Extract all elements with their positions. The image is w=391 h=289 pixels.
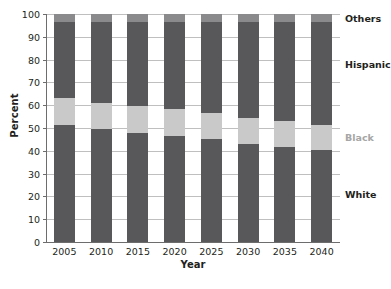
- bar-segment-2035-white[interactable]: [274, 147, 295, 242]
- bar-segment-2030-black[interactable]: [238, 118, 259, 144]
- x-axis-title: Year: [46, 259, 340, 270]
- bar-segment-2040-others[interactable]: [311, 14, 332, 22]
- bar-segment-2020-black[interactable]: [164, 109, 185, 136]
- y-tick-label-50: 50: [28, 123, 40, 134]
- legend-label-hispanic: Hispanic: [345, 59, 391, 70]
- y-tick-label-40: 40: [28, 145, 40, 156]
- x-tick-label-2015: 2015: [126, 246, 150, 257]
- bar-segment-2005-hispanic[interactable]: [54, 22, 75, 98]
- x-tick-label-2010: 2010: [89, 246, 113, 257]
- bar-segment-2040-hispanic[interactable]: [311, 22, 332, 125]
- y-tick-label-10: 10: [28, 214, 40, 225]
- y-tick-label-30: 30: [28, 168, 40, 179]
- bar-segment-2015-white[interactable]: [127, 133, 148, 242]
- bar-2035[interactable]: [274, 14, 295, 242]
- bar-segment-2025-others[interactable]: [201, 14, 222, 22]
- bar-2025[interactable]: [201, 14, 222, 242]
- y-tick-mark-100: [43, 14, 47, 15]
- bar-segment-2010-white[interactable]: [91, 129, 112, 242]
- y-tick-mark-0: [43, 242, 47, 243]
- bar-segment-2005-black[interactable]: [54, 98, 75, 124]
- bar-2015[interactable]: [127, 14, 148, 242]
- legend-label-white: White: [345, 189, 376, 200]
- bar-2020[interactable]: [164, 14, 185, 242]
- bar-segment-2005-others[interactable]: [54, 14, 75, 22]
- y-tick-label-80: 80: [28, 54, 40, 65]
- y-axis-title: Percent: [9, 81, 20, 151]
- bar-segment-2035-black[interactable]: [274, 121, 295, 147]
- x-tick-label-2025: 2025: [199, 246, 223, 257]
- y-tick-label-20: 20: [28, 191, 40, 202]
- bar-segment-2015-others[interactable]: [127, 14, 148, 22]
- x-tick-label-2040: 2040: [310, 246, 334, 257]
- bar-2005[interactable]: [54, 14, 75, 242]
- bar-segment-2010-black[interactable]: [91, 103, 112, 129]
- y-tick-mark-50: [43, 128, 47, 129]
- x-tick-label-2020: 2020: [163, 246, 187, 257]
- bar-segment-2010-others[interactable]: [91, 14, 112, 22]
- bar-segment-2030-others[interactable]: [238, 14, 259, 22]
- bar-segment-2040-black[interactable]: [311, 125, 332, 150]
- bar-segment-2030-hispanic[interactable]: [238, 22, 259, 118]
- y-tick-mark-10: [43, 219, 47, 220]
- y-tick-label-60: 60: [28, 100, 40, 111]
- bar-segment-2015-black[interactable]: [127, 106, 148, 132]
- y-tick-mark-70: [43, 82, 47, 83]
- bar-segment-2040-white[interactable]: [311, 150, 332, 242]
- y-tick-label-90: 90: [28, 31, 40, 42]
- bar-segment-2005-white[interactable]: [54, 125, 75, 242]
- y-tick-mark-30: [43, 174, 47, 175]
- y-tick-mark-90: [43, 37, 47, 38]
- bar-segment-2030-white[interactable]: [238, 144, 259, 242]
- bar-segment-2010-hispanic[interactable]: [91, 22, 112, 103]
- y-tick-mark-60: [43, 105, 47, 106]
- legend-label-others: Others: [345, 12, 381, 23]
- y-tick-mark-80: [43, 60, 47, 61]
- y-tick-label-100: 100: [22, 9, 40, 20]
- legend-label-black: Black: [345, 132, 374, 143]
- y-tick-mark-40: [43, 151, 47, 152]
- bar-segment-2020-hispanic[interactable]: [164, 22, 185, 109]
- bar-segment-2035-others[interactable]: [274, 14, 295, 22]
- y-tick-label-70: 70: [28, 77, 40, 88]
- bar-2040[interactable]: [311, 14, 332, 242]
- y-tick-mark-20: [43, 196, 47, 197]
- x-tick-label-2030: 2030: [236, 246, 260, 257]
- stacked-bar-chart: Percent 01020304050607080901002005201020…: [0, 0, 391, 289]
- bar-2030[interactable]: [238, 14, 259, 242]
- x-tick-label-2035: 2035: [273, 246, 297, 257]
- bar-segment-2020-others[interactable]: [164, 14, 185, 22]
- plot-area: 0102030405060708090100200520102015202020…: [46, 14, 340, 242]
- y-tick-label-0: 0: [34, 237, 40, 248]
- bar-segment-2020-white[interactable]: [164, 136, 185, 242]
- bar-segment-2025-black[interactable]: [201, 113, 222, 139]
- x-tick-label-2005: 2005: [52, 246, 76, 257]
- bar-segment-2025-white[interactable]: [201, 139, 222, 242]
- bar-segment-2015-hispanic[interactable]: [127, 22, 148, 106]
- bar-segment-2035-hispanic[interactable]: [274, 22, 295, 121]
- bar-2010[interactable]: [91, 14, 112, 242]
- gridline-0: [46, 242, 340, 243]
- bar-segment-2025-hispanic[interactable]: [201, 22, 222, 113]
